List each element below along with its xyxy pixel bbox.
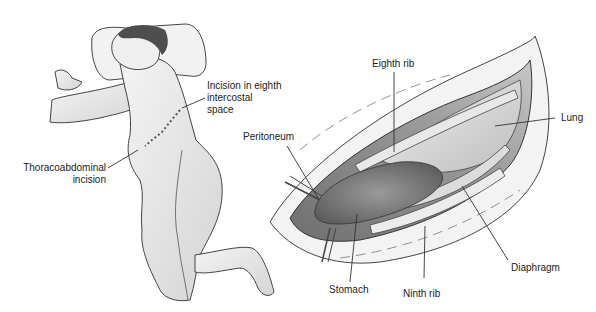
label-ninth-rib: Ninth rib xyxy=(403,288,440,300)
label-thoracoabdominal-incision: Thoracoabdominal incision xyxy=(18,162,106,186)
label-lung: Lung xyxy=(561,112,583,124)
label-eighth-rib: Eighth rib xyxy=(372,58,414,70)
anatomy-illustration xyxy=(0,0,596,312)
label-incision-eighth-intercostal: Incision in eighth intercostal space xyxy=(207,80,282,116)
label-diaphragm: Diaphragm xyxy=(511,262,560,274)
illustration-canvas: Incision in eighth intercostal space Tho… xyxy=(0,0,596,312)
operative-field xyxy=(270,36,549,263)
label-stomach: Stomach xyxy=(329,284,368,296)
label-peritoneum: Peritoneum xyxy=(243,131,294,143)
